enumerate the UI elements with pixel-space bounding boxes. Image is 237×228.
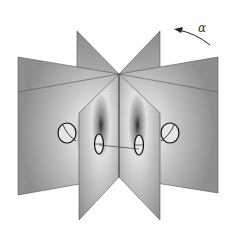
field-planes-diagram: α [0,0,237,228]
arrowhead-icon [174,27,183,33]
diagram-canvas: α [0,0,237,228]
alpha-label: α [198,21,206,35]
ring-section-left [58,123,76,143]
ring-section-right [161,123,179,143]
